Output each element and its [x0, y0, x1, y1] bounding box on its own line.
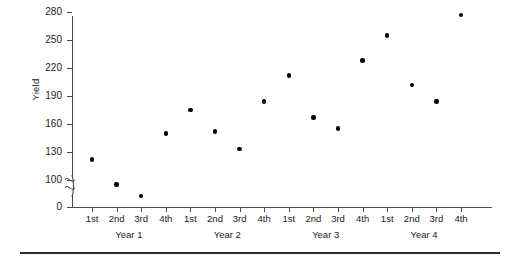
data-point: [164, 131, 168, 135]
x-tick: [338, 207, 339, 212]
y-tick-label: 190: [26, 91, 62, 101]
x-tick: [92, 207, 93, 212]
y-tick-label: 130: [26, 147, 62, 157]
x-group-label: Year 2: [192, 230, 262, 240]
y-tick: [67, 12, 72, 13]
x-tick: [363, 207, 364, 212]
y-tick-label: 280: [26, 7, 62, 17]
x-group-label: Year 1: [94, 230, 164, 240]
x-group-label: Year 3: [291, 230, 361, 240]
y-tick: [67, 180, 72, 181]
data-point: [114, 182, 118, 186]
x-tick: [264, 207, 265, 212]
y-tick-label: 250: [26, 35, 62, 45]
scatter-chart: Yield 0100130160190220250280 1st2nd3rd4t…: [0, 0, 517, 268]
x-group-label: Year 4: [389, 230, 459, 240]
x-axis-line: [72, 207, 492, 208]
x-tick: [190, 207, 191, 212]
data-point: [336, 126, 340, 130]
x-tick: [461, 207, 462, 212]
y-tick: [67, 152, 72, 153]
axis-break-squiggle-icon: [62, 174, 84, 198]
x-tick: [117, 207, 118, 212]
y-tick: [67, 207, 72, 208]
x-tick: [412, 207, 413, 212]
data-point: [459, 13, 463, 17]
x-tick: [387, 207, 388, 212]
x-tick: [141, 207, 142, 212]
x-tick: [240, 207, 241, 212]
data-point: [237, 147, 241, 151]
y-tick: [67, 40, 72, 41]
data-point: [410, 83, 414, 87]
y-tick-label: 100: [26, 175, 62, 185]
data-point: [434, 99, 438, 103]
data-point: [188, 108, 192, 112]
x-tick: [215, 207, 216, 212]
data-point: [385, 33, 389, 37]
y-tick: [67, 124, 72, 125]
y-tick: [67, 68, 72, 69]
x-tick: [289, 207, 290, 212]
y-axis-line-upper: [72, 16, 73, 178]
data-point: [262, 99, 266, 103]
data-point: [360, 58, 364, 62]
data-point: [213, 129, 217, 133]
x-tick: [166, 207, 167, 212]
y-tick-label: 160: [26, 119, 62, 129]
x-tick: [436, 207, 437, 212]
y-tick: [67, 96, 72, 97]
data-point: [90, 157, 94, 161]
data-point: [139, 194, 143, 198]
data-point: [287, 73, 291, 77]
x-tick-label: 4th: [446, 214, 476, 224]
y-tick-label: 0: [26, 202, 62, 212]
data-point: [311, 115, 315, 119]
x-tick: [313, 207, 314, 212]
y-tick-label: 220: [26, 63, 62, 73]
bottom-rule: [20, 252, 500, 254]
